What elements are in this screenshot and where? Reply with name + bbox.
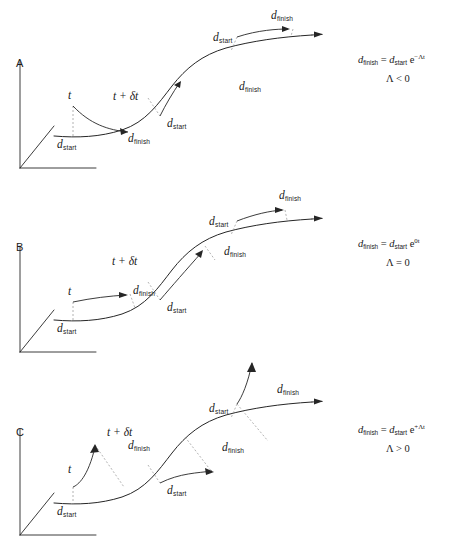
label-d-start-axis: dstart	[57, 139, 76, 151]
equation-c: dfinish = dstart e+Λt	[358, 425, 425, 436]
equals-sign: =	[381, 424, 387, 435]
tick-dfinish-top	[237, 404, 268, 441]
lyapunov-figure: A t t + δt dstart dfinish dstart dfinish…	[0, 0, 449, 551]
condition-b: Λ = 0	[386, 258, 410, 269]
sep-arrow-upper	[237, 29, 288, 37]
arrowhead-lower	[119, 292, 128, 298]
condition-c: Λ > 0	[386, 444, 410, 455]
tick-dfinish-top	[291, 29, 293, 36]
tick-dstart-upper	[231, 404, 237, 418]
label-d-finish-mid: dfinish	[222, 442, 244, 454]
origin-diagonal	[20, 126, 54, 168]
panel-letter-b: B	[16, 242, 23, 253]
panel-letter-c: C	[16, 427, 24, 438]
arrowhead-trajectory	[314, 32, 323, 38]
arrowhead-trajectory	[314, 216, 323, 222]
label-d-finish-top: dfinish	[279, 190, 301, 202]
label-d-finish-lower: dfinish	[128, 440, 150, 452]
equals-sign: =	[381, 54, 387, 65]
label-d-finish-mid: dfinish	[224, 246, 246, 258]
arrowhead-upper	[282, 26, 290, 32]
origin-diagonal	[20, 310, 54, 352]
label-time-t-plus-dt: t + δt	[113, 91, 138, 103]
tick-dfinish-lower	[95, 445, 124, 487]
label-d-start-upper: dstart	[209, 403, 228, 415]
sep-arrow-lower	[73, 447, 95, 487]
label-d-finish-lower: dfinish	[133, 285, 155, 297]
panel-a: A t t + δt dstart dfinish dstart dfinish…	[0, 0, 449, 184]
tick-dfinish-mid	[185, 437, 212, 472]
label-time-t: t	[68, 90, 71, 102]
tick-dfinish-mid	[205, 246, 215, 260]
label-d-finish-mid: dfinish	[239, 81, 261, 93]
label-time-t: t	[68, 286, 71, 298]
arrowhead-upper	[275, 207, 284, 213]
panel-c: C t t + δt dstart dfinish dstart dfinish…	[0, 367, 449, 551]
panel-c-graphics	[0, 367, 449, 551]
label-d-start-mid: dstart	[167, 485, 186, 497]
arrowhead-mid	[195, 250, 203, 258]
panel-letter-a: A	[16, 58, 23, 69]
origin-diagonal	[20, 493, 54, 535]
label-d-start-mid: dstart	[167, 118, 186, 130]
sep-arrow-mid	[160, 82, 180, 116]
panel-b-graphics	[0, 184, 449, 368]
condition-a: Λ < 0	[386, 74, 410, 85]
sep-arrow-lower	[73, 295, 126, 302]
label-time-t: t	[68, 464, 71, 476]
label-d-finish-lower: dfinish	[128, 133, 150, 145]
equation-a: dfinish = dstart e−Λt	[358, 55, 425, 66]
label-d-start-axis: dstart	[57, 323, 76, 335]
label-time-t-plus-dt: t + δt	[112, 256, 137, 268]
equals-sign: =	[381, 238, 387, 249]
label-d-start-upper: dstart	[213, 32, 232, 44]
label-d-finish-top: dfinish	[277, 384, 299, 396]
panel-b: B t t + δt dstart dfinish dstart dfinish…	[0, 184, 449, 368]
label-d-start-axis: dstart	[57, 506, 76, 518]
sep-arrow-lower	[73, 106, 128, 132]
label-d-start-mid: dstart	[167, 302, 186, 314]
label-d-finish-top: dfinish	[271, 10, 293, 22]
label-d-start-upper: dstart	[209, 216, 228, 228]
sep-arrow-mid	[160, 471, 212, 483]
tick-dstart-upper	[231, 221, 237, 235]
tick-dfinish-top	[285, 210, 287, 220]
arrowhead-trajectory	[314, 399, 323, 405]
label-time-t-plus-dt: t + δt	[107, 427, 132, 439]
equation-b: dfinish = dstart e0t	[358, 239, 420, 250]
